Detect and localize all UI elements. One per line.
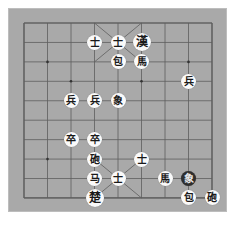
piece-cannon[interactable]: 砲 (87, 152, 102, 167)
piece-soldier[interactable]: 卒 (64, 132, 79, 147)
piece-advisor[interactable]: 士 (111, 35, 126, 50)
piece-advisor[interactable]: 士 (87, 35, 102, 50)
piece-cannon[interactable]: 砲 (205, 190, 220, 205)
piece-advisor[interactable]: 士 (134, 152, 149, 167)
piece-general[interactable]: 楚 (86, 189, 104, 207)
piece-general[interactable]: 漢 (133, 33, 151, 51)
piece-horse[interactable]: 馬 (158, 171, 173, 186)
piece-elephant[interactable]: 象 (111, 93, 126, 108)
piece-elephant-selected[interactable]: 象 (181, 171, 196, 186)
piece-horse[interactable]: 马 (87, 171, 102, 186)
piece-advisor[interactable]: 士 (111, 171, 126, 186)
piece-soldier[interactable]: 兵 (181, 74, 196, 89)
piece-soldier[interactable]: 兵 (64, 93, 79, 108)
piece-cannon[interactable]: 包 (111, 54, 126, 69)
